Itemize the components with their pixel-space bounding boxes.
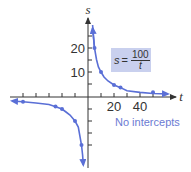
point-20-5 xyxy=(112,83,116,87)
formula-numerator: 100 xyxy=(131,50,150,61)
x-tick-label-40: 40 xyxy=(133,99,147,114)
formula-fraction: 100 t xyxy=(131,50,150,71)
x-axis-label: t xyxy=(179,89,183,104)
hyperbola-chart: 20 40 20 10 s t xyxy=(0,0,191,172)
y-axis-label: s xyxy=(85,2,90,17)
point-neg5-neg20 xyxy=(80,143,84,147)
point-50-2 xyxy=(151,90,155,94)
formula-label: s = 100 t xyxy=(114,49,150,71)
point-neg50-neg2 xyxy=(21,100,25,104)
left-branch-curve xyxy=(23,102,83,165)
y-tick-label-10: 10 xyxy=(71,65,85,80)
y-ticks xyxy=(88,36,92,145)
no-intercepts-note: No intercepts xyxy=(115,116,180,128)
formula-equals: = xyxy=(122,54,128,66)
point-neg20-neg5 xyxy=(60,107,64,111)
right-branch-top-arrow xyxy=(93,28,95,48)
point-neg10-neg10 xyxy=(73,119,77,123)
x-tick-label-20: 20 xyxy=(107,99,121,114)
y-tick-label-20: 20 xyxy=(71,41,85,56)
point-5-20 xyxy=(93,46,97,50)
formula-denominator: t xyxy=(139,61,142,71)
point-10-10 xyxy=(99,70,103,74)
formula-variable: s xyxy=(114,54,120,66)
point-25-4 xyxy=(119,85,123,89)
point-neg25-neg4 xyxy=(54,105,58,109)
